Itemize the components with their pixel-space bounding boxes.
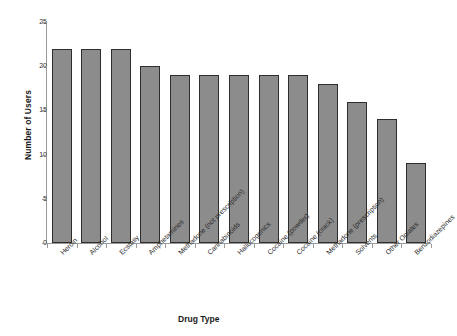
x-tick-mark bbox=[224, 244, 225, 248]
y-tick: 20 bbox=[0, 66, 47, 67]
bar bbox=[229, 75, 249, 243]
x-tick-mark bbox=[313, 244, 314, 248]
x-tick-mark bbox=[106, 244, 107, 248]
y-tick: 15 bbox=[0, 110, 47, 111]
x-tick-mark bbox=[372, 244, 373, 248]
x-tick-mark bbox=[431, 244, 432, 248]
bar bbox=[140, 66, 160, 243]
x-tick-mark bbox=[47, 244, 48, 248]
y-tick: 10 bbox=[0, 155, 47, 156]
bar bbox=[81, 49, 101, 243]
x-axis-title: Drug Type bbox=[178, 314, 219, 324]
x-tick-mark bbox=[136, 244, 137, 248]
bar bbox=[377, 119, 397, 243]
x-tick-mark bbox=[165, 244, 166, 248]
x-tick-mark bbox=[254, 244, 255, 248]
x-tick-mark bbox=[195, 244, 196, 248]
y-tick: 25 bbox=[0, 22, 47, 23]
y-axis-title: Number of Users bbox=[21, 0, 35, 250]
y-tick: 5 bbox=[0, 199, 47, 200]
bar bbox=[52, 49, 72, 243]
bar bbox=[259, 75, 279, 243]
bar bbox=[111, 49, 131, 243]
y-tick: 0 bbox=[0, 243, 47, 244]
